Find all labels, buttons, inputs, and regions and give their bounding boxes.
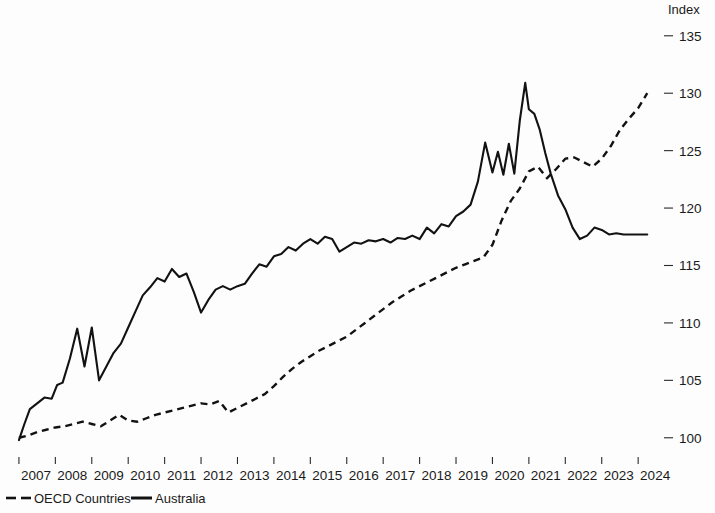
- x-tick-label: 2015: [312, 468, 342, 483]
- x-tick-label: 2007: [21, 468, 51, 483]
- series-line-oecd-countries: [19, 93, 647, 438]
- x-tick-label: 2014: [276, 468, 307, 483]
- series-group: [19, 83, 647, 440]
- y-tick-label: 115: [679, 258, 701, 273]
- y-tick-label: 130: [679, 86, 702, 101]
- x-tick-label: 2012: [203, 468, 233, 483]
- x-tick-label: 2021: [531, 468, 561, 483]
- legend-label-australia: Australia: [155, 491, 206, 506]
- x-tick-label: 2024: [640, 468, 671, 483]
- x-tick-label: 2013: [239, 468, 269, 483]
- legend-label-oecd-countries: OECD Countries: [34, 491, 131, 506]
- x-tick-label: 2016: [349, 468, 379, 483]
- line-chart-svg: Index 100105110115120125130135 200720082…: [0, 0, 715, 513]
- x-tick-label: 2020: [494, 468, 524, 483]
- chart-container: Index 100105110115120125130135 200720082…: [0, 0, 715, 513]
- y-tick-label: 110: [679, 316, 701, 331]
- x-tick-label: 2022: [567, 468, 597, 483]
- chart-legend: OECD Countries Australia: [6, 491, 206, 506]
- y-tick-label: 100: [679, 431, 702, 446]
- x-tick-label: 2018: [422, 468, 452, 483]
- x-tick-label: 2008: [57, 468, 87, 483]
- y-tick-label: 135: [679, 29, 702, 44]
- x-tick-label: 2009: [94, 468, 124, 483]
- x-tick-label: 2019: [458, 468, 488, 483]
- y-axis-unit-label: Index: [668, 2, 700, 17]
- series-line-australia: [19, 83, 647, 440]
- y-axis-ticks: 100105110115120125130135: [664, 29, 702, 446]
- y-tick-label: 120: [679, 201, 702, 216]
- y-tick-label: 105: [679, 373, 702, 388]
- x-tick-label: 2023: [604, 468, 634, 483]
- x-tick-label: 2011: [167, 468, 196, 483]
- y-tick-label: 125: [679, 144, 702, 159]
- x-tick-label: 2017: [385, 468, 415, 483]
- x-axis-ticks: 2007200820092010201120122013201420152016…: [19, 457, 671, 483]
- x-tick-label: 2010: [130, 468, 160, 483]
